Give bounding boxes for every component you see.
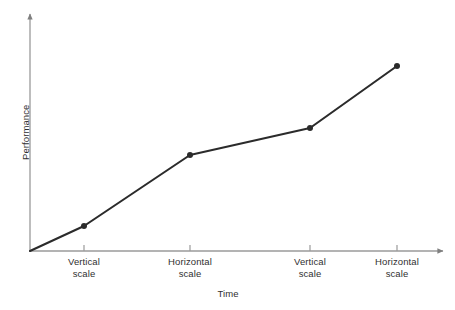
x-tick-label-3-line2: scale: [265, 268, 355, 280]
data-point-marker: [307, 125, 313, 131]
x-tick-label-1-line1: Vertical: [39, 256, 129, 268]
x-tick-label-3: Vertical scale: [265, 256, 355, 279]
x-tick-label-2: Horizontal scale: [145, 256, 235, 279]
data-point-marker: [81, 223, 87, 229]
data-point-marker: [394, 63, 400, 69]
x-tick-label-4-line1: Horizontal: [352, 256, 442, 268]
x-tick-label-4: Horizontal scale: [352, 256, 442, 279]
x-tick-label-3-line1: Vertical: [265, 256, 355, 268]
x-tick-label-4-line2: scale: [352, 268, 442, 280]
x-axis-title: Time: [168, 288, 288, 299]
x-tick-label-2-line2: scale: [145, 268, 235, 280]
x-tick-label-2-line1: Horizontal: [145, 256, 235, 268]
x-axis-ticks: [84, 245, 397, 251]
x-tick-label-1-line2: scale: [39, 268, 129, 280]
data-point-markers: [81, 63, 400, 229]
x-tick-label-1: Vertical scale: [39, 256, 129, 279]
y-axis-title: Performance: [20, 105, 31, 160]
data-point-marker: [187, 152, 193, 158]
performance-time-chart: Performance Vertical scale Horizontal sc…: [0, 0, 455, 310]
